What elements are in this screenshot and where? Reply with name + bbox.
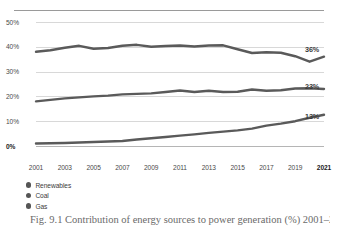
x-tick-2005: 2005 xyxy=(86,164,100,171)
end-label-gas: 23% xyxy=(305,82,319,91)
figure-container: 50%40%30%20%10%0% 36% 23% 13% 2001200320… xyxy=(0,0,338,226)
legend-dot-icon xyxy=(26,193,31,198)
line-coal xyxy=(36,45,324,62)
legend-label: Gas xyxy=(35,203,47,210)
x-tick-2019: 2019 xyxy=(288,164,302,171)
line-renewables xyxy=(36,115,324,144)
x-tick-2003: 2003 xyxy=(58,164,72,171)
line-gas xyxy=(36,88,324,101)
legend-item-gas[interactable]: Gas xyxy=(26,201,186,211)
x-tick-2015: 2015 xyxy=(230,164,244,171)
x-tick-2009: 2009 xyxy=(144,164,158,171)
legend-dot-icon xyxy=(26,182,31,187)
legend-dot-icon xyxy=(26,203,31,208)
legend-item-renewables[interactable]: Renewables xyxy=(26,180,186,190)
figure-caption: Fig. 9.1 Contribution of energy sources … xyxy=(30,214,330,226)
plot-area: 50%40%30%20%10%0% 36% 23% 13% xyxy=(0,16,338,162)
x-tick-2007: 2007 xyxy=(115,164,129,171)
x-tick-2021: 2021 xyxy=(317,164,331,171)
x-tick-2001: 2001 xyxy=(29,164,43,171)
x-tick-2011: 2011 xyxy=(173,164,187,171)
legend-label: Coal xyxy=(35,192,48,199)
top-rule xyxy=(14,10,324,11)
end-label-coal: 36% xyxy=(305,45,319,54)
legend: RenewablesCoalGas xyxy=(26,180,186,212)
legend-label: Renewables xyxy=(35,182,71,189)
x-tick-2013: 2013 xyxy=(202,164,216,171)
x-tick-2017: 2017 xyxy=(259,164,273,171)
legend-item-coal[interactable]: Coal xyxy=(26,191,186,201)
x-axis-labels: 2001200320052007200920112013201520172019… xyxy=(0,164,338,178)
series-lines xyxy=(0,16,338,162)
end-label-renewables: 13% xyxy=(305,112,319,121)
